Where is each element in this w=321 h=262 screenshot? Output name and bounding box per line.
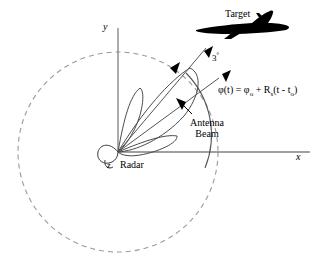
equation-term1-subscript: o — [250, 90, 254, 98]
diagram-canvas — [0, 0, 321, 262]
beamwidth-arrow-lower-icon — [222, 70, 231, 82]
beam-edge-lower — [118, 78, 219, 152]
antenna-beam-label: Antenna Beam — [180, 118, 234, 139]
beamwidth-label: 3° — [212, 52, 219, 63]
equation-paren-open: (t - t — [273, 84, 290, 95]
x-axis-label: x — [296, 152, 300, 163]
y-axis-label: y — [103, 22, 107, 33]
antenna-beam-line-2: Beam — [195, 128, 218, 139]
beamwidth-unit: ° — [217, 52, 219, 58]
radar-label: Radar — [120, 160, 144, 171]
radar-beam-diagram: Target y x z Radar 3° Antenna Beam φ(t) … — [0, 0, 321, 262]
z-axis-label: z — [107, 161, 111, 170]
scan-angle-equation: φ(t) = φo + Rs(t - to) — [218, 85, 297, 98]
target-label: Target — [225, 9, 250, 20]
equation-equals: = — [236, 84, 242, 95]
main-lobe — [118, 68, 198, 152]
equation-paren-close: ) — [294, 84, 297, 95]
equation-lhs: φ(t) — [218, 84, 233, 95]
equation-plus: + — [256, 84, 262, 95]
antenna-beam-line-1: Antenna — [190, 117, 224, 128]
